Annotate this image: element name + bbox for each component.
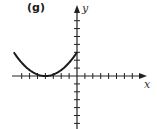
x-axis-label: x [144,78,151,91]
graph-plot: x y [0,0,157,129]
axes [12,5,147,129]
parabola-curve [14,52,77,76]
y-axis-arrow-icon [74,5,80,13]
y-axis-label: y [81,2,89,15]
